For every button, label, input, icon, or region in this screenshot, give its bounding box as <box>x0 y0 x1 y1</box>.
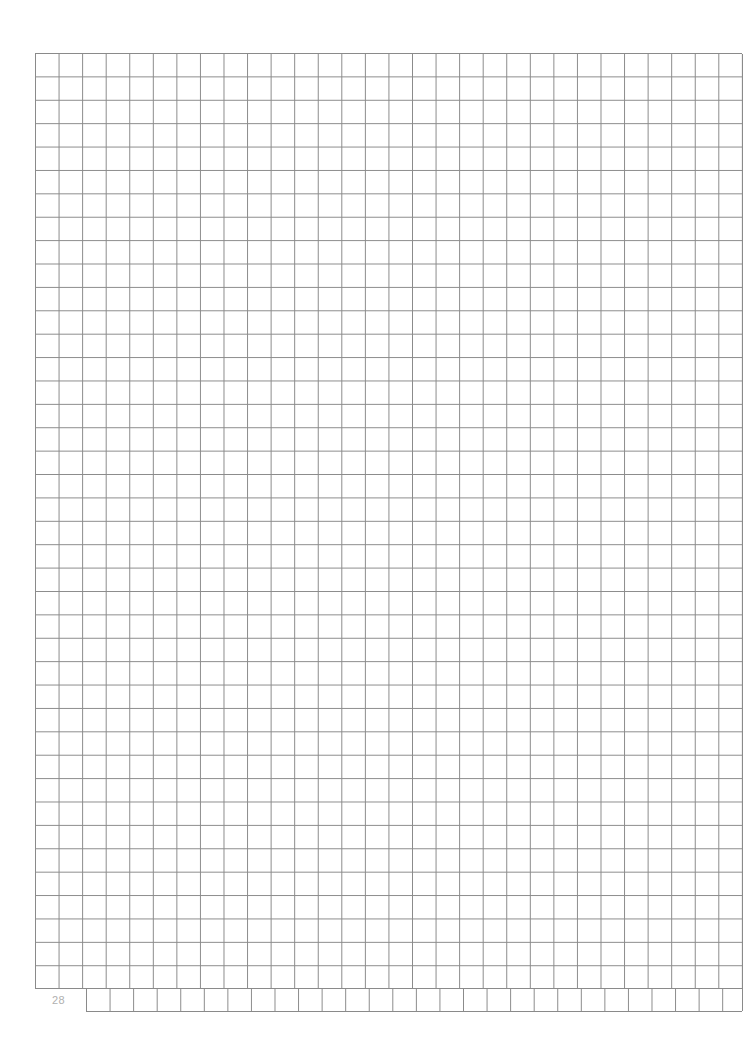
graph-paper-grid-last-row <box>86 988 742 1012</box>
page-number: 28 <box>52 994 65 1006</box>
grid-bottom-edge <box>35 988 86 989</box>
graph-paper-grid <box>35 53 742 989</box>
